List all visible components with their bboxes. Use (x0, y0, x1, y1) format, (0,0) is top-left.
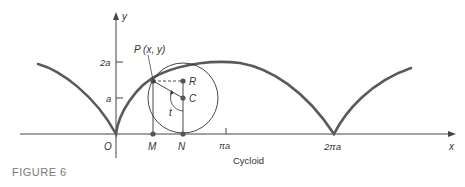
label-n: N (178, 141, 186, 152)
x-tick-label-2pi-a: 2πa (323, 141, 341, 152)
label-p: P (x, y) (134, 44, 165, 55)
point-n (180, 131, 185, 136)
label-r: R (189, 76, 196, 87)
point-c (180, 95, 185, 100)
diagram-subtitle: Cycloid (233, 155, 264, 166)
y-axis-label: y (121, 11, 128, 22)
y-tick-label-a: a (106, 93, 111, 104)
x-axis-label: x (448, 141, 455, 152)
origin-label: O (104, 141, 112, 152)
y-axis-arrow-icon (113, 12, 119, 20)
figure-caption: FIGURE 6 (12, 166, 67, 178)
point-r (180, 78, 185, 83)
segment-pc (153, 81, 183, 98)
label-m: M (148, 141, 157, 152)
label-c: C (189, 93, 197, 104)
y-tick-label-2a: 2a (99, 57, 111, 68)
x-axis-arrow-icon (448, 131, 456, 137)
x-tick-label-pi-a: πa (219, 141, 230, 151)
p-leader (148, 55, 153, 80)
cycloid-curve (38, 62, 411, 134)
label-t: t (169, 107, 173, 118)
point-m (150, 131, 155, 136)
